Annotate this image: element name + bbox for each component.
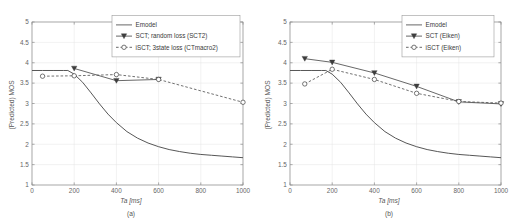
legend-marker-2 <box>122 45 126 49</box>
legend-label-2: iSCT; 3state loss (CTmacro2) <box>136 44 218 52</box>
xtick-label: 600 <box>411 187 422 194</box>
ytick-label: 5 <box>25 18 29 25</box>
ytick-label: 1.5 <box>278 161 287 168</box>
series-marker-2 <box>40 74 44 78</box>
series-marker-2 <box>457 99 461 103</box>
xtick-label: 400 <box>369 187 380 194</box>
xtick-label: 800 <box>195 187 206 194</box>
panel-a-xlabel: Ta [ms] <box>120 197 142 205</box>
series-line-0 <box>32 70 243 157</box>
xtick-label: 600 <box>153 187 164 194</box>
series-marker-1 <box>372 71 377 76</box>
series-marker-2 <box>414 91 418 95</box>
ytick-label: 3.5 <box>278 79 287 86</box>
ytick-label: 5 <box>283 18 287 25</box>
ytick-label: 2 <box>25 141 29 148</box>
xtick-label: 0 <box>30 187 34 194</box>
panel-b-xlabel: Ta [ms] <box>378 197 400 205</box>
series-marker-2 <box>303 82 307 86</box>
panel-b-caption: (b) <box>385 210 393 218</box>
xtick-label: 1000 <box>236 187 251 194</box>
ytick-label: 3 <box>25 100 29 107</box>
ytick-label: 4.5 <box>20 39 29 46</box>
figure-two-panel-line-charts: 11.522.533.544.5502004006008001000 Emode… <box>0 0 513 222</box>
panel-a-ylabel: (Predicted) MOS <box>8 80 16 130</box>
ytick-label: 3.5 <box>20 79 29 86</box>
series-marker-2 <box>330 67 334 71</box>
xtick-label: 800 <box>453 187 464 194</box>
series-marker-2 <box>241 100 245 104</box>
ytick-label: 4.5 <box>278 39 287 46</box>
series-marker-1 <box>414 84 419 89</box>
panel-a: 11.522.533.544.5502004006008001000 Emode… <box>0 0 256 222</box>
xtick-label: 400 <box>111 187 122 194</box>
ytick-label: 2.5 <box>278 120 287 127</box>
panel-a-caption: (a) <box>127 210 135 218</box>
legend-label-1: SCT; random loss (SCT2) <box>136 32 208 40</box>
ytick-label: 4 <box>25 59 29 66</box>
ytick-label: 3 <box>283 100 287 107</box>
ytick-label: 1 <box>25 181 29 188</box>
ytick-label: 4 <box>283 59 287 66</box>
ytick-label: 1 <box>283 181 287 188</box>
series-line-1 <box>305 59 501 104</box>
xtick-label: 0 <box>288 187 292 194</box>
xtick-label: 1000 <box>494 187 509 194</box>
ytick-label: 2.5 <box>20 120 29 127</box>
series-line-2 <box>43 75 243 103</box>
xtick-label: 200 <box>69 187 80 194</box>
xtick-label: 200 <box>327 187 338 194</box>
legend-marker-2 <box>412 45 416 49</box>
panel-a-series <box>32 66 245 158</box>
series-marker-2 <box>114 72 118 76</box>
legend-label-2: iSCT (Eiken) <box>426 44 462 52</box>
series-marker-2 <box>72 74 76 78</box>
legend-label-0: Emodel <box>136 21 157 28</box>
ytick-label: 2 <box>283 141 287 148</box>
panel-b-plot: 11.522.533.544.5502004006008001000 Emode… <box>256 0 513 222</box>
legend-label-0: Emodel <box>426 21 447 28</box>
panel-a-plot: 11.522.533.544.5502004006008001000 Emode… <box>0 0 256 222</box>
panel-b: 11.522.533.544.5502004006008001000 Emode… <box>256 0 512 222</box>
panel-b-series <box>290 56 504 157</box>
ytick-label: 1.5 <box>20 161 29 168</box>
series-line-2 <box>305 69 501 103</box>
legend-label-1: SCT (Eiken) <box>426 32 460 40</box>
series-line-0 <box>290 70 501 157</box>
series-marker-2 <box>372 77 376 81</box>
panel-a-legend: EmodelSCT; random loss (SCT2)iSCT; 3stat… <box>112 16 240 57</box>
panel-b-ylabel: (Predicted) MOS <box>264 80 272 130</box>
series-marker-2 <box>156 77 160 81</box>
series-marker-2 <box>499 101 503 105</box>
panel-b-legend: EmodelSCT (Eiken)iSCT (Eiken) <box>402 16 494 57</box>
